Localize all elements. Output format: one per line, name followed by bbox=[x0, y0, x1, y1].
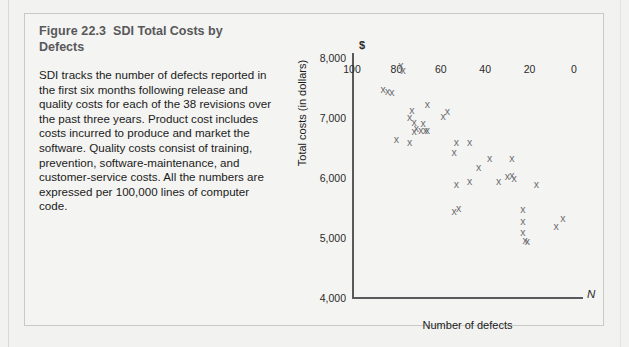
data-point-marker: x bbox=[454, 204, 463, 213]
y-axis-title: Total costs (in dollars) bbox=[296, 28, 308, 198]
y-tick-label: 5,000 bbox=[320, 232, 346, 244]
data-point-marker: x bbox=[439, 112, 448, 121]
data-point-marker: x bbox=[423, 126, 432, 135]
figure-number: Figure 22.3 bbox=[39, 24, 106, 38]
data-point-marker: x bbox=[387, 88, 396, 97]
x-tick-label: 40 bbox=[479, 63, 491, 75]
x-tick-label: 100 bbox=[343, 63, 361, 75]
page-edge-right bbox=[620, 0, 621, 347]
figure-title: Figure 22.3SDI Total Costs by Defects bbox=[39, 24, 271, 55]
figure-page: Figure 22.3SDI Total Costs by Defects SD… bbox=[0, 0, 629, 347]
data-point-marker: x bbox=[485, 154, 494, 163]
figure-container: Figure 22.3SDI Total Costs by Defects SD… bbox=[24, 13, 604, 326]
data-point-marker: x bbox=[465, 138, 474, 147]
x-tick-label: 20 bbox=[524, 63, 536, 75]
data-point-marker: x bbox=[410, 127, 419, 136]
data-point-marker: x bbox=[494, 177, 503, 186]
page-edge-left bbox=[8, 0, 9, 347]
data-point-marker: x bbox=[399, 66, 408, 75]
data-point-marker: x bbox=[523, 237, 532, 246]
data-point-marker: x bbox=[423, 100, 432, 109]
data-point-marker: x bbox=[518, 217, 527, 226]
y-tick-label: 4,000 bbox=[320, 292, 346, 304]
data-point-marker: x bbox=[532, 180, 541, 189]
figure-description: SDI tracks the number of defects reporte… bbox=[39, 68, 271, 214]
x-tick-label: 60 bbox=[435, 63, 447, 75]
scatter-chart: $ N Total costs (in dollars) Number of d… bbox=[273, 22, 603, 322]
x-tick-label: 0 bbox=[571, 63, 577, 75]
y-tick-label: 7,000 bbox=[320, 112, 346, 124]
data-point-marker: x bbox=[518, 205, 527, 214]
data-point-marker: x bbox=[465, 177, 474, 186]
data-point-marker: x bbox=[452, 180, 461, 189]
x-axis-symbol: N bbox=[587, 288, 595, 300]
data-point-marker: x bbox=[510, 174, 519, 183]
y-tick-label: 8,000 bbox=[320, 52, 346, 64]
data-point-marker: x bbox=[405, 138, 414, 147]
data-point-marker: x bbox=[507, 154, 516, 163]
x-axis-title: Number of defects bbox=[352, 319, 583, 331]
data-point-marker: x bbox=[450, 148, 459, 157]
data-point-marker: x bbox=[558, 214, 567, 223]
data-point-marker: x bbox=[474, 163, 483, 172]
y-tick-label: 6,000 bbox=[320, 172, 346, 184]
data-point-marker: x bbox=[392, 135, 401, 144]
y-axis-symbol: $ bbox=[359, 39, 365, 51]
plot-area: 4,0005,0006,0007,0008,000 100806040200 x… bbox=[352, 58, 574, 298]
figure-caption-column: Figure 22.3SDI Total Costs by Defects SD… bbox=[39, 24, 271, 214]
